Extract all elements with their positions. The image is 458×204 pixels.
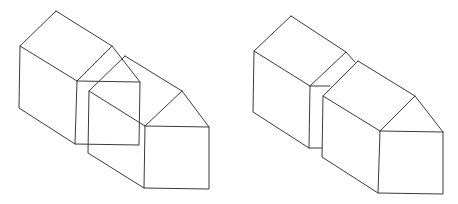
house-edge-line [89, 91, 145, 188]
house-edge-line [380, 131, 443, 132]
house-edge-line [346, 52, 355, 62]
house-edge-line [291, 16, 346, 86]
house-edge-line [322, 61, 443, 194]
left-panel-overlapping-houses [19, 11, 209, 189]
house-edge-line [77, 81, 140, 82]
house-edge-line [323, 96, 380, 193]
house-edge-line [20, 46, 77, 144]
house-edge-line [145, 126, 209, 127]
house-edge-line [77, 46, 112, 81]
right-panel-separated-houses [253, 16, 443, 194]
isometric-house-diagram [0, 0, 458, 204]
house-edge-line [145, 91, 182, 126]
house-edge-line [253, 16, 322, 148]
house-edge-line [380, 96, 415, 131]
house-edge-line [254, 51, 310, 148]
